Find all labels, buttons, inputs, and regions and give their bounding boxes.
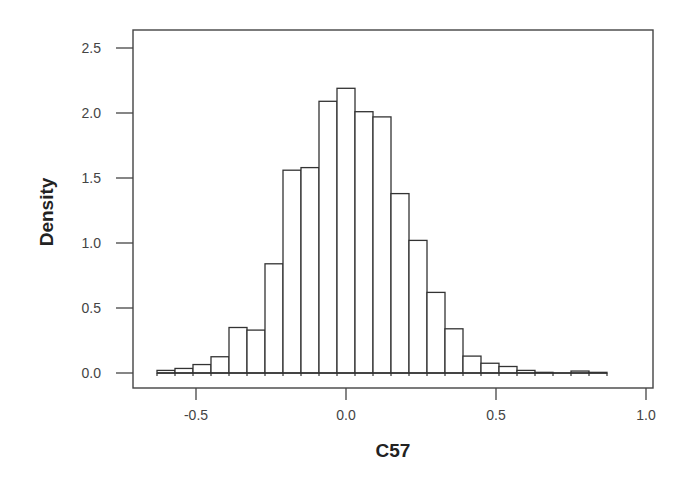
y-tick-label: 2.5 [82,40,102,56]
histogram-bar [265,264,283,373]
histogram-bar [337,88,355,373]
histogram-bar [409,240,427,373]
y-tick-label: 1.0 [82,235,102,251]
histogram-bar [481,363,499,373]
y-axis: 0.00.51.01.52.02.5 [82,40,133,381]
histogram-bar [355,112,373,373]
y-tick-label: 0.5 [82,300,102,316]
x-tick-label: 0.0 [336,407,356,423]
y-tick-label: 1.5 [82,170,102,186]
histogram-bar [211,357,229,373]
histogram-bars [157,88,607,376]
histogram-bar [391,194,409,373]
x-tick-label: 0.5 [486,407,506,423]
y-tick-label: 2.0 [82,105,102,121]
x-axis-title: C57 [376,440,411,461]
histogram-bar [427,292,445,373]
histogram-bar [247,330,265,373]
histogram-bar [193,365,211,373]
x-axis: -0.50.00.51.0 [184,388,656,423]
histogram-bar [463,356,481,373]
histogram-bar [319,101,337,373]
histogram-bar [445,329,463,373]
histogram-bar [301,168,319,373]
y-tick-label: 0.0 [82,365,102,381]
histogram-bar [373,117,391,373]
histogram-chart: -0.50.00.51.0 0.00.51.01.52.02.5 C57 Den… [0,0,686,479]
x-tick-label: 1.0 [636,407,656,423]
x-tick-label: -0.5 [184,407,208,423]
histogram-bar [283,170,301,373]
histogram-bar [499,367,517,374]
histogram-bar [229,328,247,374]
y-axis-title: Density [36,177,57,246]
